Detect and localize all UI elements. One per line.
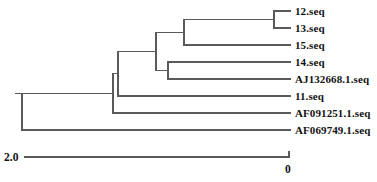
tip-label-12: 12.seq (295, 6, 325, 17)
phylogenetic-tree-figure: 12.seq 13.seq 15.seq 14.seq AJ132668.1.s… (0, 0, 377, 182)
tip-label-11: 11.seq (295, 91, 324, 102)
tip-label-15: 15.seq (295, 40, 325, 51)
scale-bar-right-label: 0 (285, 163, 291, 175)
tip-label-14: 14.seq (295, 57, 325, 68)
tree-branches (16, 11, 290, 157)
tip-label-aj132668: AJ132668.1.seq (295, 74, 369, 85)
scale-bar-left-label: 2.0 (4, 151, 18, 163)
tip-label-af069749: AF069749.1.seq (295, 125, 370, 136)
tip-label-af091251: AF091251.1.seq (295, 108, 370, 119)
tip-label-13: 13.seq (295, 23, 325, 34)
